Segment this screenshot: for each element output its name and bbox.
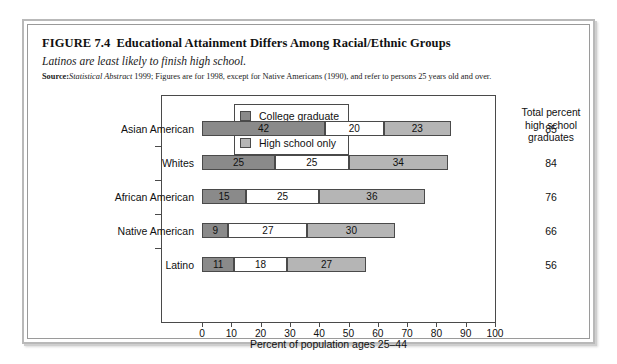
bar-segment: 42 [202, 121, 325, 136]
y-axis-tick [155, 248, 161, 249]
bar-segment: 34 [349, 155, 449, 170]
figure-inner-border: FIGURE 7.4Educational Attainment Differs… [27, 24, 590, 339]
x-axis-tick [407, 323, 408, 327]
bar-segment: 11 [202, 257, 234, 272]
x-axis-tick [466, 323, 467, 327]
legend-item: High school only [240, 137, 339, 150]
x-axis-tick [378, 323, 379, 327]
total-percent-value: 85 [506, 123, 596, 135]
y-axis-tick [155, 146, 161, 147]
legend-swatch-high-school-only [240, 138, 251, 148]
bar-segment: 25 [246, 189, 319, 204]
bar-segment: 18 [234, 257, 287, 272]
x-axis-tick [436, 323, 437, 327]
bar-segment: 27 [228, 223, 307, 238]
bar-segment: 20 [325, 121, 384, 136]
total-percent-value: 56 [506, 259, 596, 271]
legend-swatch-college-graduate [240, 111, 251, 121]
x-axis-tick [319, 323, 320, 327]
bar-segment: 27 [287, 257, 366, 272]
total-percent-value: 66 [506, 225, 596, 237]
legend-label: High school only [259, 137, 336, 149]
x-axis-tick [290, 323, 291, 327]
chart-area: College graduate Some college High schoo… [28, 25, 601, 350]
totals-header-line1: Total percent [506, 107, 596, 120]
bar-segment: 23 [384, 121, 451, 136]
category-label: Latino [34, 259, 194, 271]
x-axis-title: Percent of population ages 25–44 [161, 338, 496, 350]
bar-segment: 36 [319, 189, 424, 204]
x-axis-tick [261, 323, 262, 327]
bar-segment: 30 [307, 223, 395, 238]
x-axis-tick [231, 323, 232, 327]
y-axis-tick [155, 180, 161, 181]
category-label: Whites [34, 157, 194, 169]
y-axis-tick [155, 214, 161, 215]
bar-segment: 25 [275, 155, 348, 170]
total-percent-value: 76 [506, 191, 596, 203]
bar-segment: 25 [202, 155, 275, 170]
category-label: Asian American [34, 123, 194, 135]
bar-segment: 15 [202, 189, 246, 204]
total-percent-value: 84 [506, 157, 596, 169]
x-axis-tick [202, 323, 203, 327]
category-label: Native American [34, 225, 194, 237]
category-label: African American [34, 191, 194, 203]
bar-segment: 9 [202, 223, 228, 238]
x-axis-tick [349, 323, 350, 327]
x-axis-tick [495, 323, 496, 327]
figure-frame: FIGURE 7.4Educational Attainment Differs… [22, 19, 595, 344]
